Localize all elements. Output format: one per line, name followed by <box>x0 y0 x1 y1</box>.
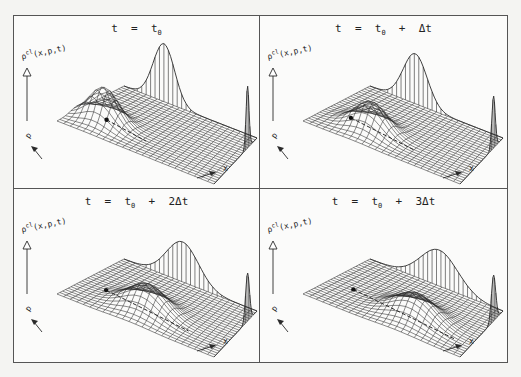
panel-title: t = t0 + 2Δt <box>14 195 259 210</box>
surface-plot: px <box>14 16 260 189</box>
surface-plot: px <box>260 16 507 189</box>
panel-t0-plus-dt: px t = t0 + Δt ρcl(x,p,t) <box>260 16 507 189</box>
svg-text:p: p <box>23 304 33 313</box>
svg-text:x: x <box>223 164 228 173</box>
svg-text:p: p <box>269 304 279 313</box>
svg-text:p: p <box>269 131 279 140</box>
panel-t0: px t = t0 ρcl(x,p,t) <box>14 16 260 189</box>
surface-plot: px <box>260 189 507 362</box>
panel-title: t = t0 <box>14 22 259 37</box>
svg-text:x: x <box>469 337 474 346</box>
panel-title: t = t0 + Δt <box>260 22 507 37</box>
svg-text:p: p <box>23 131 33 140</box>
panel-t0-plus-3dt: px t = t0 + 3Δt ρcl(x,p,t) <box>260 189 507 362</box>
wigner-evolution-figure: px t = t0 ρcl(x,p,t) px t = t0 + Δt ρcl(… <box>13 15 508 363</box>
panel-t0-plus-2dt: px t = t0 + 2Δt ρcl(x,p,t) <box>14 189 260 362</box>
surface-plot: px <box>14 189 260 362</box>
svg-text:x: x <box>469 164 474 173</box>
panel-title: t = t0 + 3Δt <box>260 195 507 210</box>
svg-text:x: x <box>223 337 228 346</box>
